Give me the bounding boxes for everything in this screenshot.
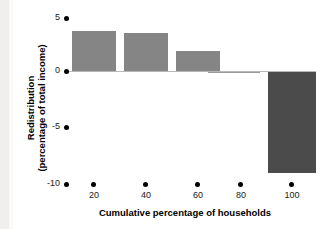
xtick-label-100: 100 bbox=[277, 190, 307, 200]
xtick-dot-40 bbox=[143, 182, 148, 187]
bar-60 bbox=[176, 51, 220, 71]
xtick-label-60: 60 bbox=[183, 190, 213, 200]
bar-chart-plot-area: 5 0 -5 -10 20 40 60 80 100 Cumulative pe… bbox=[0, 0, 325, 229]
chart-screenshot: 5 0 -5 -10 20 40 60 80 100 Cumulative pe… bbox=[0, 0, 325, 229]
xtick-label-40: 40 bbox=[131, 190, 161, 200]
bar-40 bbox=[124, 33, 168, 71]
bar-100 bbox=[268, 72, 316, 174]
xtick-dot-100 bbox=[289, 182, 294, 187]
ytick-dot-5 bbox=[64, 16, 69, 21]
y-axis-title: Redistribution (percentage of total inco… bbox=[25, 23, 47, 193]
x-axis-title: Cumulative percentage of households bbox=[55, 207, 315, 218]
ytick-label-5: 5 bbox=[34, 12, 60, 22]
xtick-label-80: 80 bbox=[226, 190, 256, 200]
xtick-dot-60 bbox=[195, 182, 200, 187]
xtick-dot-20 bbox=[91, 182, 96, 187]
ytick-dot-neg5 bbox=[64, 125, 69, 130]
zero-baseline bbox=[68, 71, 316, 72]
ytick-dot-neg10 bbox=[64, 182, 69, 187]
ytick-dot-0 bbox=[64, 69, 69, 74]
y-axis-title-line1: Redistribution bbox=[25, 23, 36, 193]
y-axis-title-line2: (percentage of total income) bbox=[36, 23, 47, 193]
xtick-label-20: 20 bbox=[79, 190, 109, 200]
xtick-dot-80 bbox=[238, 182, 243, 187]
bar-20 bbox=[72, 31, 116, 71]
